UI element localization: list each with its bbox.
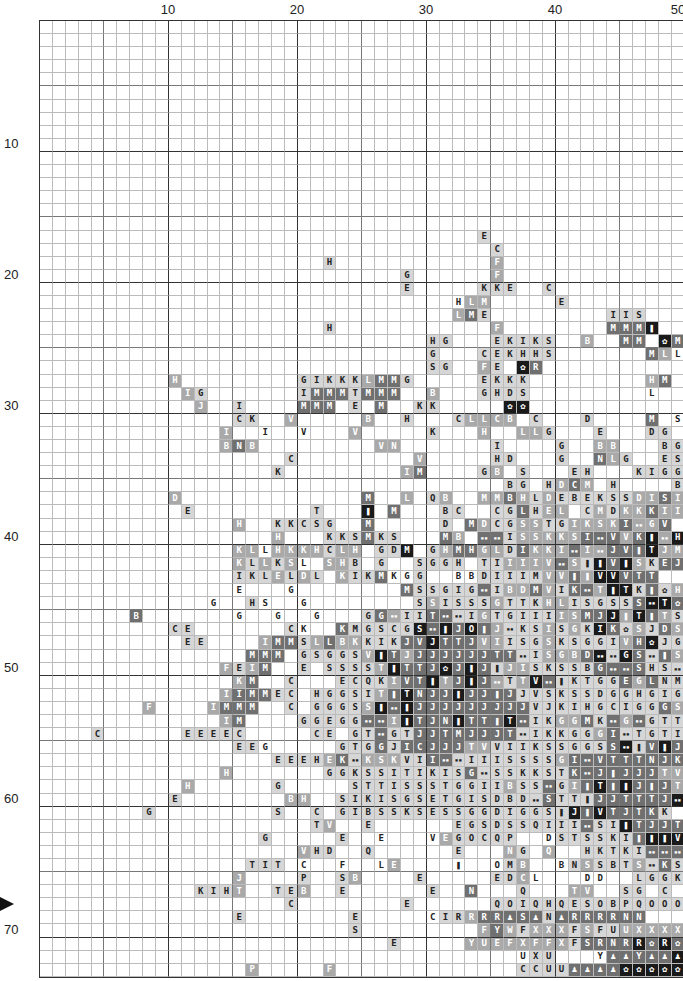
empty-cell	[672, 231, 683, 244]
empty-cell	[272, 401, 285, 414]
empty-cell	[40, 427, 53, 440]
double-block-icon: ▪▪	[581, 820, 594, 833]
empty-cell	[195, 126, 208, 139]
empty-cell	[156, 911, 169, 924]
empty-cell	[504, 73, 517, 86]
stitch-symbol: J	[453, 650, 466, 663]
empty-cell	[79, 388, 92, 401]
stitch-symbol: D	[659, 623, 672, 636]
stitch-symbol: E	[504, 283, 517, 296]
empty-cell	[130, 885, 143, 898]
empty-cell	[220, 466, 233, 479]
stitch-symbol: I	[672, 728, 683, 741]
empty-cell	[182, 754, 195, 767]
empty-cell	[66, 60, 79, 73]
empty-cell	[375, 505, 388, 518]
stitch-symbol: K	[388, 571, 401, 584]
empty-cell	[427, 519, 440, 532]
stitch-symbol: H	[401, 414, 414, 427]
empty-cell	[220, 217, 233, 230]
empty-cell	[440, 244, 453, 257]
empty-cell	[40, 689, 53, 702]
empty-cell	[504, 165, 517, 178]
empty-cell	[117, 414, 130, 427]
empty-cell	[143, 767, 156, 780]
stitch-symbol: S	[388, 532, 401, 545]
empty-cell	[388, 244, 401, 257]
empty-cell	[285, 715, 298, 728]
empty-cell	[620, 440, 633, 453]
empty-cell	[40, 414, 53, 427]
empty-cell	[156, 584, 169, 597]
empty-cell	[104, 231, 117, 244]
stitch-symbol: S	[517, 532, 530, 545]
empty-cell	[233, 492, 246, 505]
stitch-symbol: S	[478, 820, 491, 833]
empty-cell	[298, 47, 311, 60]
empty-cell	[272, 335, 285, 348]
stitch-symbol: M	[388, 375, 401, 388]
stitch-symbol: K	[233, 545, 246, 558]
stitch-symbol: G	[453, 780, 466, 793]
column-label: 50	[671, 2, 683, 17]
stitch-symbol: G	[401, 794, 414, 807]
stitch-symbol: F	[336, 859, 349, 872]
empty-cell	[233, 60, 246, 73]
empty-cell	[336, 257, 349, 270]
stitch-symbol: I	[182, 388, 195, 401]
stitch-symbol: F	[569, 924, 582, 937]
empty-cell	[324, 623, 337, 636]
empty-cell	[362, 453, 375, 466]
stitch-symbol: V	[543, 571, 556, 584]
empty-cell	[543, 73, 556, 86]
stitch-symbol: K	[556, 702, 569, 715]
empty-cell	[40, 375, 53, 388]
empty-cell	[169, 545, 182, 558]
empty-cell	[143, 165, 156, 178]
empty-cell	[336, 924, 349, 937]
stitch-symbol: M	[362, 492, 375, 505]
empty-cell	[543, 231, 556, 244]
empty-cell	[336, 60, 349, 73]
empty-cell	[440, 898, 453, 911]
stitch-symbol: L	[517, 505, 530, 518]
empty-cell	[401, 191, 414, 204]
empty-cell	[453, 375, 466, 388]
empty-cell	[66, 859, 79, 872]
empty-cell	[311, 584, 324, 597]
empty-cell	[104, 597, 117, 610]
empty-cell	[362, 47, 375, 60]
empty-cell	[272, 623, 285, 636]
empty-cell	[324, 676, 337, 689]
empty-cell	[311, 532, 324, 545]
stitch-symbol: G	[311, 715, 324, 728]
empty-cell	[143, 558, 156, 571]
empty-cell	[220, 414, 233, 427]
empty-cell	[620, 152, 633, 165]
empty-cell	[117, 375, 130, 388]
empty-cell	[156, 715, 169, 728]
empty-cell	[117, 820, 130, 833]
stitch-symbol: I	[633, 846, 646, 859]
empty-cell	[195, 244, 208, 257]
bottle-icon: ❚	[633, 545, 646, 558]
empty-cell	[349, 820, 362, 833]
empty-cell	[66, 204, 79, 217]
stitch-symbol: M	[672, 676, 683, 689]
stitch-symbol: I	[298, 388, 311, 401]
empty-cell	[453, 322, 466, 335]
stitch-symbol: M	[246, 676, 259, 689]
bottle-icon: ❚	[388, 689, 401, 702]
empty-cell	[92, 663, 105, 676]
empty-cell	[672, 152, 683, 165]
empty-cell	[633, 257, 646, 270]
empty-cell	[427, 165, 440, 178]
stitch-symbol: L	[311, 636, 324, 649]
empty-cell	[104, 100, 117, 113]
empty-cell	[298, 178, 311, 191]
empty-cell	[117, 257, 130, 270]
empty-cell	[607, 414, 620, 427]
empty-cell	[156, 204, 169, 217]
empty-cell	[156, 113, 169, 126]
empty-cell	[311, 440, 324, 453]
